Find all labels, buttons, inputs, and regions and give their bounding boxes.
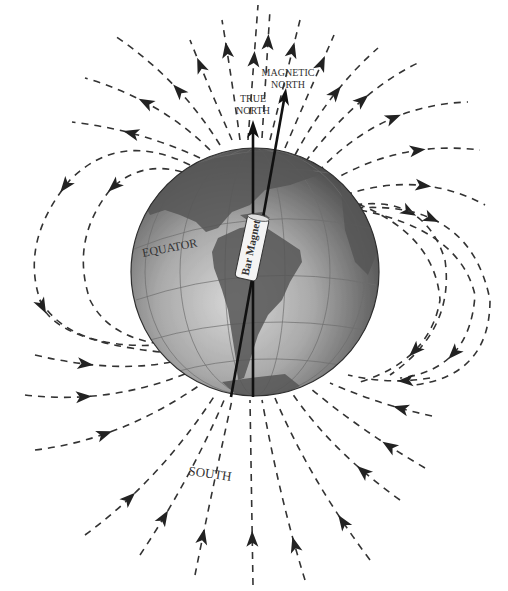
field-line — [275, 398, 370, 560]
field-line — [295, 48, 378, 155]
field-arrow-icon — [247, 51, 260, 68]
field-arrow-icon — [313, 53, 330, 72]
true-north-label-line1: TRUE — [240, 93, 266, 104]
field-arrow-icon — [56, 176, 75, 196]
field-line — [345, 185, 485, 205]
field-line — [85, 78, 210, 150]
field-line — [310, 388, 425, 468]
field-line — [330, 383, 432, 416]
field-arrow-icon — [155, 507, 174, 527]
field-line — [348, 375, 430, 381]
magnetic-north-label-line2: NORTH — [271, 79, 305, 90]
field-arrow-icon — [333, 512, 352, 532]
field-line — [318, 102, 468, 172]
field-arrow-icon — [415, 179, 432, 193]
field-line — [262, 400, 305, 580]
field-arrow-icon — [326, 82, 345, 102]
magnetic-field-diagram: Bar Magnet TRUE NORTH MAGNETIC NORTH EQU… — [0, 0, 508, 591]
field-arrow-icon — [384, 109, 403, 126]
field-arrow-icon — [409, 143, 426, 157]
field-line — [115, 36, 220, 145]
field-line — [195, 400, 232, 575]
field-line — [330, 148, 480, 182]
field-arrow-icon — [192, 55, 209, 74]
field-line — [305, 62, 420, 162]
field-arrow-icon — [136, 93, 156, 111]
field-arrow-icon — [379, 437, 399, 456]
field-line — [25, 372, 190, 397]
field-line — [35, 355, 180, 366]
field-arrow-icon — [287, 535, 303, 554]
field-arrow-icon — [220, 41, 234, 59]
field-line — [290, 390, 400, 500]
field-arrow-icon — [195, 527, 210, 545]
field-arrow-icon — [262, 34, 275, 51]
field-arrow-icon — [391, 400, 410, 416]
south-label: SOUTH — [188, 463, 233, 484]
field-arrow-icon — [122, 125, 141, 141]
field-arrow-icon — [422, 210, 442, 228]
field-line — [248, 5, 258, 140]
field-arrow-icon — [95, 426, 114, 443]
field-line — [250, 400, 253, 585]
field-arrow-icon — [285, 41, 301, 59]
field-arrow-icon — [33, 297, 51, 317]
true-north-label-line2: NORTH — [236, 105, 270, 116]
field-line — [35, 385, 200, 450]
magnetic-north-label-line1: MAGNETIC — [262, 67, 315, 78]
